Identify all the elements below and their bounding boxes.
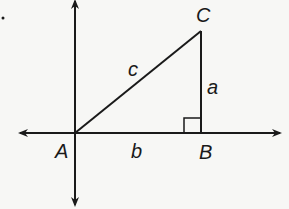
stray-dot (2, 17, 5, 20)
side-c-hypotenuse (75, 31, 201, 133)
diagram-canvas: C c a A b B (0, 0, 289, 209)
side-label-b: b (131, 140, 142, 162)
vertex-label-c: C (196, 4, 211, 26)
vertex-label-b: B (199, 141, 212, 163)
side-label-a: a (207, 76, 218, 98)
vertex-label-a: A (54, 140, 68, 162)
right-angle-marker (184, 118, 201, 133)
triangle-diagram: C c a A b B (0, 0, 289, 209)
side-label-c: c (128, 58, 138, 80)
